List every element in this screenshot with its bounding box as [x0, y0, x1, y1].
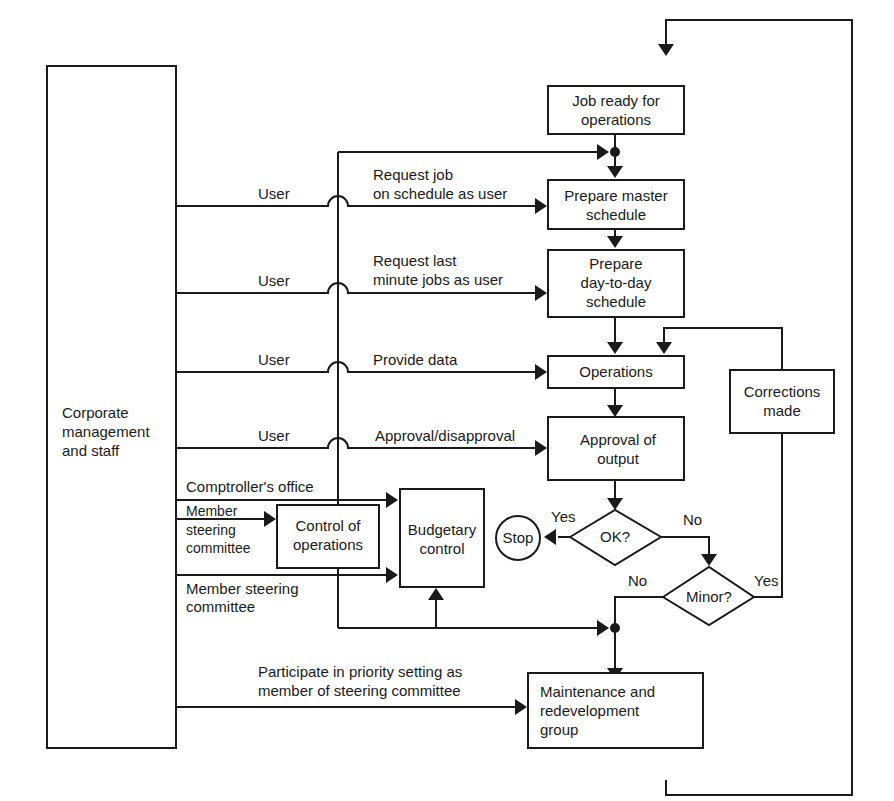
arrow-into-job-ready-icon: [658, 44, 674, 56]
node-prepare-day-schedule[interactable]: Prepare day-to-day schedule: [548, 250, 684, 317]
edge-ok-no-to-minor: [661, 537, 709, 556]
arrow-into-bottom-junction-icon: [597, 620, 609, 636]
label-minor-yes: Yes: [754, 572, 778, 589]
node-label: Prepare: [589, 255, 642, 272]
label-participate: member of steering committee: [258, 682, 461, 699]
node-label: operations: [581, 111, 651, 128]
edge-user-provide-data: [176, 362, 535, 372]
label-participate: Participate in priority setting as: [258, 663, 462, 680]
label-request-job: on schedule as user: [373, 185, 507, 202]
node-label: Corporate: [62, 404, 129, 421]
node-label: Budgetary: [408, 521, 477, 538]
node-label: day-to-day: [581, 274, 652, 291]
node-label: Maintenance and: [540, 683, 655, 700]
label-approval-disapproval: Approval/disapproval: [375, 427, 515, 444]
node-label: redevelopment: [540, 702, 640, 719]
node-label: made: [763, 402, 801, 419]
label-user-4: User: [258, 427, 290, 444]
label-member-steering-1: Member: [186, 503, 238, 519]
node-label: OK?: [600, 528, 630, 545]
node-corporate-management[interactable]: Corporate management and staff: [47, 66, 176, 748]
label-comptroller: Comptroller's office: [186, 478, 314, 495]
label-ok-yes: Yes: [551, 508, 575, 525]
node-minor-decision[interactable]: Minor?: [663, 567, 754, 625]
arrow-into-approval-left-icon: [535, 440, 547, 456]
label-provide-data: Provide data: [373, 351, 458, 368]
arrow-into-day-left-icon: [535, 285, 547, 301]
node-label: control: [419, 540, 464, 557]
node-label: Approval of: [580, 431, 657, 448]
junction-dot-top-icon: [610, 147, 620, 157]
node-label: schedule: [586, 293, 646, 310]
node-operations[interactable]: Operations: [548, 356, 684, 388]
label-user-2: User: [258, 272, 290, 289]
node-maintenance-redevelopment[interactable]: Maintenance and redevelopment group: [528, 673, 703, 748]
arrow-into-master-icon: [607, 166, 623, 178]
label-member-steering-2: committee: [186, 598, 255, 615]
node-label: Stop: [503, 529, 534, 546]
node-label: Job ready for: [572, 92, 660, 109]
arrow-into-ok-icon: [607, 498, 623, 510]
arrow-into-operations-right-icon: [656, 342, 672, 354]
label-member-steering-1: committee: [186, 540, 251, 556]
junction-dot-bottom-icon: [610, 623, 620, 633]
label-user-3: User: [258, 351, 290, 368]
arrow-into-top-junction-icon: [597, 144, 609, 160]
node-label: management: [62, 423, 150, 440]
node-label: Minor?: [686, 588, 732, 605]
node-control-of-operations[interactable]: Control of operations: [277, 505, 379, 568]
edge-labels: User User User User Request job on sched…: [186, 166, 778, 699]
node-ok-decision[interactable]: OK?: [570, 510, 661, 565]
label-user-1: User: [258, 185, 290, 202]
node-label: Control of: [295, 517, 361, 534]
arrow-into-master-left-icon: [535, 198, 547, 214]
label-minor-no: No: [628, 572, 647, 589]
arrow-into-operations-from-left-icon: [535, 364, 547, 380]
node-label: operations: [293, 536, 363, 553]
arrow-into-budgetary-bottom-icon: [428, 588, 444, 600]
label-member-steering-2: Member steering: [186, 580, 299, 597]
node-label: schedule: [586, 206, 646, 223]
flowchart-canvas: Corporate management and staff Job ready…: [0, 0, 894, 801]
node-corrections-made[interactable]: Corrections made: [730, 370, 834, 433]
arrow-into-stop-icon: [544, 529, 556, 545]
edge-minor-no-to-junction: [615, 597, 663, 628]
arrow-into-control-icon: [264, 511, 276, 527]
arrow-into-approval-icon: [607, 405, 623, 417]
arrow-into-budgetary-lower-icon: [386, 567, 398, 583]
node-label: Prepare master: [564, 187, 667, 204]
label-request-last: Request last: [373, 252, 457, 269]
arrow-into-budgetary-top-icon: [386, 492, 398, 508]
arrow-into-maintenance-left-icon: [515, 699, 527, 715]
node-label: output: [597, 450, 640, 467]
node-label: and staff: [62, 442, 120, 459]
arrow-into-day-icon: [607, 236, 623, 248]
label-request-job: Request job: [373, 166, 453, 183]
label-request-last: minute jobs as user: [373, 271, 503, 288]
label-ok-no: No: [683, 511, 702, 528]
arrow-into-minor-icon: [701, 554, 717, 566]
node-approval-of-output[interactable]: Approval of output: [548, 417, 684, 480]
node-prepare-master-schedule[interactable]: Prepare master schedule: [548, 180, 684, 229]
node-stop[interactable]: Stop: [496, 516, 540, 560]
node-label: group: [540, 721, 578, 738]
label-member-steering-1: steering: [186, 522, 236, 538]
node-budgetary-control[interactable]: Budgetary control: [400, 489, 484, 587]
arrow-into-operations-left-icon: [607, 342, 623, 354]
node-label: Corrections: [744, 383, 821, 400]
node-job-ready[interactable]: Job ready for operations: [548, 86, 684, 134]
node-label: Operations: [579, 363, 652, 380]
